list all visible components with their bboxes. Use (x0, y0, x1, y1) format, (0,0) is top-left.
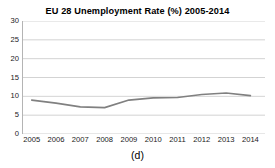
y-tick-label: 5 (0, 111, 19, 119)
plot-area (22, 21, 265, 134)
x-axis: 2005200620072008200920102011201220132014 (22, 136, 265, 148)
gridlines (22, 21, 265, 134)
y-tick-label: 20 (0, 55, 19, 63)
line-chart-svg (22, 21, 265, 134)
y-tick-label: 25 (0, 36, 19, 44)
chart-title: EU 28 Unemployment Rate (%) 2005-2014 (0, 6, 275, 16)
chart-figure: EU 28 Unemployment Rate (%) 2005-2014 05… (0, 0, 275, 168)
y-tick-label: 15 (0, 74, 19, 82)
y-axis: 051015202530 (0, 21, 19, 134)
figure-caption: (d) (0, 149, 275, 161)
data-series-line (32, 93, 251, 108)
x-tick-label: 2014 (235, 136, 265, 144)
y-tick-label: 30 (0, 17, 19, 25)
y-tick-label: 10 (0, 92, 19, 100)
